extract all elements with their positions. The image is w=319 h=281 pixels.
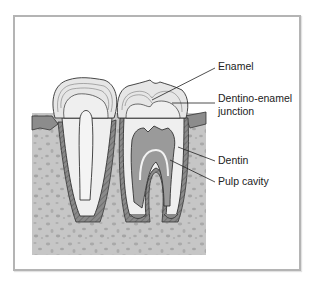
label-dentin: Dentin: [218, 154, 248, 167]
label-dej-line2: junction: [218, 105, 254, 118]
label-enamel: Enamel: [218, 60, 254, 73]
label-pulp-cavity: Pulp cavity: [218, 175, 269, 188]
label-dej-line1: Dentino-enamel: [218, 92, 292, 105]
tooth-diagram: [0, 0, 319, 281]
